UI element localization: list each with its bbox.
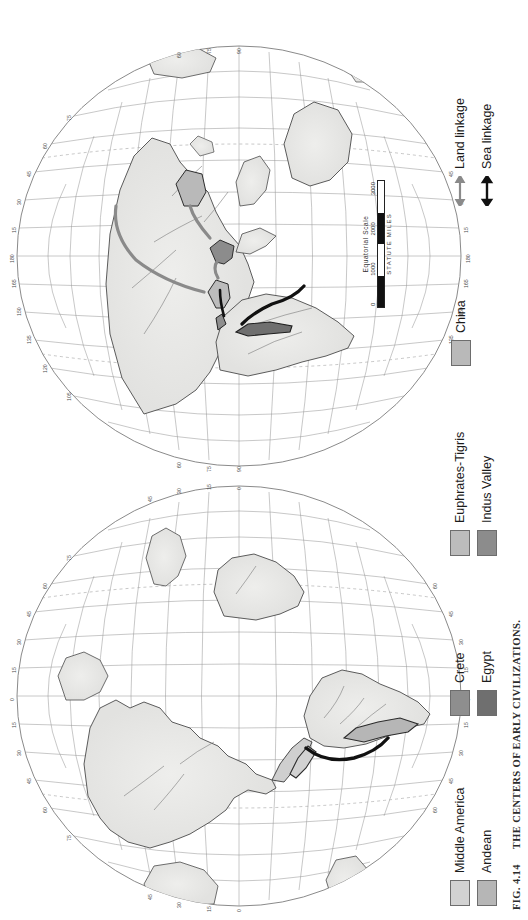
legend-item-sea-linkage: Sea linkage: [476, 98, 498, 206]
legend-item-euphrates-tigris: Euphrates-Tigris: [449, 432, 471, 556]
svg-text:60: 60: [432, 583, 438, 589]
legend-label-middle-america: Middle America: [453, 788, 467, 873]
svg-text:75: 75: [66, 115, 72, 121]
svg-text:60: 60: [42, 583, 48, 589]
legend-item-indus-valley: Indus Valley: [476, 432, 498, 556]
legend-item-andean: Andean: [476, 788, 498, 906]
svg-text:45: 45: [26, 778, 32, 784]
svg-text:45: 45: [147, 496, 153, 502]
svg-text:75: 75: [206, 48, 212, 54]
legend-label-china: China: [454, 300, 468, 333]
legend-group-americas: Middle America Andean: [449, 788, 498, 906]
svg-text:30: 30: [176, 488, 182, 494]
legend-label-crete: Crete: [453, 652, 467, 683]
svg-text:30: 30: [16, 750, 22, 756]
figure-caption: FIG. 4.14 THE CENTERS OF EARLY CIVILIZAT…: [511, 620, 522, 910]
map-west-svg: 0 15 30 45 60 75 15 30 45 60 75 0 15 30 …: [4, 478, 474, 914]
scale-bar: Equatorial Scale 0 1000 2000 3000 STATUT…: [362, 180, 392, 308]
svg-text:15: 15: [11, 667, 17, 673]
svg-text:60: 60: [42, 143, 48, 149]
svg-text:90: 90: [236, 466, 242, 472]
svg-text:105: 105: [66, 392, 72, 401]
map-east-svg: 180 165 150 135 120 105 15 30 45 60 75 1…: [4, 38, 474, 474]
legend-label-land-linkage: Land linkage: [453, 98, 467, 169]
svg-text:75: 75: [66, 835, 72, 841]
legend-group-linkages: Land linkage Sea linkage: [449, 98, 498, 206]
double-arrow-vertical-icon-land: [450, 176, 470, 206]
legend-item-china: China: [450, 300, 472, 366]
svg-text:15: 15: [206, 906, 212, 912]
scale-bar-ticks: 0 1000 2000 3000: [370, 180, 376, 308]
double-arrow-vertical-icon-sea: [477, 176, 497, 206]
svg-text:60: 60: [176, 52, 182, 58]
legend-label-andean: Andean: [480, 830, 494, 873]
legend-label-euphrates-tigris: Euphrates-Tigris: [453, 432, 467, 523]
scale-bar-units: STATUTE MILES: [386, 180, 392, 308]
swatch-indus-valley: [477, 530, 497, 556]
swatch-middle-america: [450, 880, 470, 906]
svg-text:45: 45: [26, 171, 32, 177]
swatch-egypt: [477, 690, 497, 716]
swatch-china: [451, 340, 471, 366]
svg-text:75: 75: [206, 466, 212, 472]
swatch-andean: [477, 880, 497, 906]
scale-bar-title: Equatorial Scale: [362, 180, 369, 308]
svg-text:135: 135: [26, 335, 32, 344]
scale-tick-3: 3000: [370, 182, 376, 195]
svg-text:150: 150: [16, 307, 22, 316]
svg-text:15: 15: [11, 722, 17, 728]
svg-text:30: 30: [176, 902, 182, 908]
svg-text:180: 180: [9, 254, 15, 263]
legend-item-middle-america: Middle America: [449, 788, 471, 906]
svg-text:0: 0: [9, 698, 15, 701]
svg-text:15: 15: [206, 484, 212, 490]
figure-number: FIG. 4.14: [511, 864, 522, 910]
swatch-crete: [450, 690, 470, 716]
legend-label-sea-linkage: Sea linkage: [480, 104, 494, 169]
scale-tick-2: 2000: [370, 222, 376, 235]
svg-text:30: 30: [16, 639, 22, 645]
svg-text:75: 75: [66, 555, 72, 561]
svg-text:0: 0: [236, 487, 242, 490]
svg-text:120: 120: [42, 364, 48, 373]
legend-label-indus-valley: Indus Valley: [480, 456, 494, 523]
svg-text:45: 45: [26, 611, 32, 617]
scale-bar-graphic: [377, 180, 385, 308]
legend-group-mediterranean: Crete Egypt: [449, 651, 498, 716]
figure-plate: 0 15 30 45 60 75 15 30 45 60 75 0 15 30 …: [0, 0, 528, 920]
svg-text:45: 45: [147, 894, 153, 900]
legend-item-egypt: Egypt: [476, 651, 498, 716]
scale-tick-0: 0: [370, 303, 376, 306]
svg-text:90: 90: [236, 48, 242, 54]
swatch-euphrates-tigris: [450, 530, 470, 556]
figure-title: THE CENTERS OF EARLY CIVILIZATIONS.: [511, 620, 522, 849]
svg-text:15: 15: [11, 227, 17, 233]
legend-item-crete: Crete: [449, 651, 471, 716]
svg-text:30: 30: [16, 199, 22, 205]
legend: Middle America Andean Crete Egypt Euphra…: [440, 16, 498, 906]
svg-text:60: 60: [176, 462, 182, 468]
svg-text:0: 0: [236, 909, 242, 912]
legend-item-land-linkage: Land linkage: [449, 98, 471, 206]
svg-text:60: 60: [42, 807, 48, 813]
scale-tick-1: 1000: [370, 262, 376, 275]
legend-group-southwest-asia: Euphrates-Tigris Indus Valley: [449, 432, 498, 556]
svg-text:165: 165: [11, 279, 17, 288]
map-eastern-hemisphere: 180 165 150 135 120 105 15 30 45 60 75 1…: [4, 38, 474, 474]
svg-text:60: 60: [432, 807, 438, 813]
legend-group-east-asia: China: [450, 300, 472, 366]
map-western-hemisphere: 0 15 30 45 60 75 15 30 45 60 75 0 15 30 …: [4, 478, 474, 914]
legend-label-egypt: Egypt: [480, 651, 494, 683]
